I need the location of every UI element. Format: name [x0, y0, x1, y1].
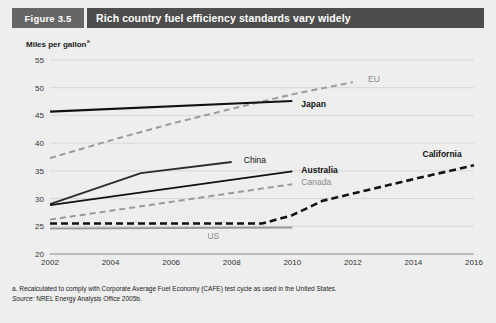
- footnote-a: a. Recalculated to comply with Corporate…: [12, 284, 484, 294]
- chart-panel: Miles per gallona 2025303540455055200220…: [12, 32, 484, 280]
- series-label-china: China: [244, 155, 266, 165]
- y-axis-tick-label: 25: [20, 222, 44, 231]
- x-axis-tick-label: 2006: [151, 258, 191, 267]
- plot-area: 2025303540455055200220042006200820102012…: [12, 32, 484, 280]
- figure-title: Rich country fuel efficiency standards v…: [87, 8, 484, 28]
- series-label-australia: Australia: [301, 165, 337, 175]
- x-axis-tick-label: 2010: [272, 258, 312, 267]
- figure-title-bar: Figure 3.5 Rich country fuel efficiency …: [12, 8, 484, 28]
- y-axis-tick-label: 40: [20, 139, 44, 148]
- figure-number-badge: Figure 3.5: [12, 8, 84, 28]
- source-text: NREL Energy Analysis Office 2005b.: [34, 295, 141, 302]
- x-axis-tick-label: 2014: [393, 258, 433, 267]
- x-axis-tick-label: 2004: [91, 258, 131, 267]
- series-label-canada: Canada: [301, 177, 331, 187]
- y-axis-tick-label: 45: [20, 111, 44, 120]
- series-label-japan: Japan: [301, 99, 326, 109]
- y-axis-tick-label: 35: [20, 166, 44, 175]
- series-line-japan: [50, 101, 292, 112]
- y-axis-tick-label: 55: [20, 56, 44, 65]
- series-line-eu: [50, 82, 353, 158]
- series-line-california: [50, 165, 474, 223]
- x-axis-tick-label: 2016: [454, 258, 494, 267]
- y-axis-tick-label: 50: [20, 83, 44, 92]
- figure-notes: a. Recalculated to comply with Corporate…: [12, 284, 484, 304]
- series-label-california: California: [423, 149, 462, 159]
- y-axis-tick-label: 30: [20, 194, 44, 203]
- x-axis-tick-label: 2002: [30, 258, 70, 267]
- series-label-eu: EU: [368, 74, 380, 84]
- x-axis-tick-label: 2008: [212, 258, 252, 267]
- source-prefix: Source:: [12, 295, 34, 302]
- series-line-us: [50, 227, 292, 228]
- series-line-canada: [50, 184, 292, 219]
- figure-source: Source: NREL Energy Analysis Office 2005…: [12, 294, 484, 304]
- series-label-us: US: [207, 231, 219, 241]
- figure-container: Figure 3.5 Rich country fuel efficiency …: [0, 0, 496, 323]
- series-line-australia: [50, 171, 292, 205]
- x-axis-tick-label: 2012: [333, 258, 373, 267]
